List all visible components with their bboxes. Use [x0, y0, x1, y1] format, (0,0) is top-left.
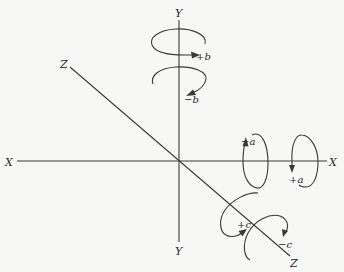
diagram-svg: X X Y Y Z Z +b −b −a: [0, 0, 344, 272]
z-axis-label-back: Z: [59, 58, 68, 71]
arrow-plus-c-icon: [239, 229, 248, 237]
label-minus-c: −c: [278, 239, 292, 250]
x-axis-label-negative: X: [4, 156, 14, 169]
rotation-loop-plus-b: +b: [151, 29, 210, 62]
label-minus-b: −b: [184, 94, 199, 105]
label-plus-a: +a: [289, 174, 303, 185]
y-axis-label-negative: Y: [175, 245, 184, 258]
axis-rotation-diagram: X X Y Y Z Z +b −b −a: [0, 0, 344, 272]
label-minus-a: −a: [241, 136, 255, 147]
z-axis-label-front: Z: [289, 257, 298, 270]
label-plus-c: +c: [237, 219, 251, 230]
rotation-loop-plus-c: +c: [221, 193, 258, 237]
x-axis-label-positive: X: [328, 156, 338, 169]
label-plus-b: +b: [196, 51, 211, 62]
arrow-plus-a-icon: [289, 165, 295, 173]
y-axis-label-positive: Y: [175, 7, 184, 20]
